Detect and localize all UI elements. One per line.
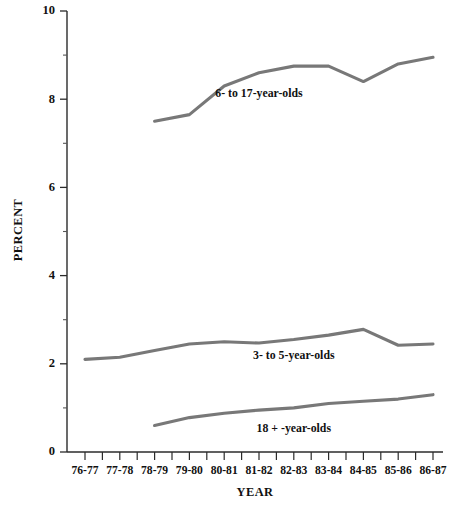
x-tick-label: 81-82 <box>245 464 272 477</box>
series-lines-group <box>85 57 433 425</box>
y-tick-label: 10 <box>43 3 56 17</box>
series-inline-label: 6- to 17-year-olds <box>215 86 303 100</box>
x-tick-label: 76-77 <box>71 464 98 477</box>
y-tick-label: 4 <box>49 268 56 282</box>
series-inline-labels-group: 6- to 17-year-olds3- to 5-year-olds18 + … <box>215 86 335 435</box>
x-tick-label: 77-78 <box>106 464 133 477</box>
x-axis-tick-labels: 76-7777-7878-7979-8080-8181-8282-8383-84… <box>71 464 446 477</box>
x-tick-label: 86-87 <box>419 464 446 477</box>
line-chart: PERCENT 0246810 76-7777-7878-7979-8080-8… <box>0 0 451 513</box>
y-tick-label: 0 <box>49 444 55 458</box>
y-axis-tick-labels: 0246810 <box>43 3 56 458</box>
series-inline-label: 18 + -year-olds <box>257 421 332 435</box>
series-inline-label: 3- to 5-year-olds <box>253 348 335 362</box>
figure-container: PERCENT 0246810 76-7777-7878-7979-8080-8… <box>0 0 451 513</box>
y-tick-label: 6 <box>49 180 55 194</box>
x-axis-title: YEAR <box>236 485 274 499</box>
x-tick-label: 80-81 <box>211 464 238 477</box>
x-tick-label: 84-85 <box>350 464 377 477</box>
y-axis-title: PERCENT <box>11 198 25 261</box>
x-tick-label: 83-84 <box>315 464 342 477</box>
x-tick-label: 85-86 <box>385 464 412 477</box>
y-tick-label: 2 <box>49 356 55 370</box>
x-axis-ticks <box>85 452 433 460</box>
x-tick-label: 78-79 <box>141 464 168 477</box>
x-tick-label: 79-80 <box>176 464 203 477</box>
y-tick-label: 8 <box>49 92 55 106</box>
figure-caption-ghost <box>8 492 11 504</box>
x-tick-label: 82-83 <box>280 464 307 477</box>
